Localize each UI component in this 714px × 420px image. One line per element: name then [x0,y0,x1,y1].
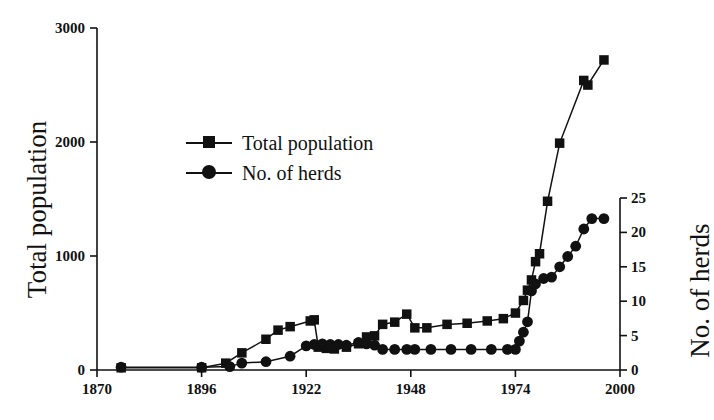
y-axis-right-tick-15: 15 [631,259,646,274]
data-point-marker [409,344,420,355]
data-point-marker [522,316,533,327]
y-axis-right-tick-5: 5 [631,328,639,343]
data-point-marker [583,80,593,90]
legend-marker-circle-icon [186,163,232,183]
data-point-marker [310,315,320,325]
data-point-marker [586,213,597,224]
data-point-marker [426,344,437,355]
data-point-marker [261,335,271,345]
x-axis-tick-1922: 1922 [291,382,321,397]
legend-label-no-of-herds: No. of herds [242,163,341,183]
data-point-marker [466,344,477,355]
data-point-marker [446,344,457,355]
data-point-marker [519,296,529,306]
data-point-marker [422,323,432,333]
data-point-marker [116,362,127,373]
data-point-marker [511,308,521,318]
data-point-marker [402,309,412,319]
data-point-marker [285,322,295,332]
data-point-marker [273,325,283,335]
legend-item-no-of-herds: No. of herds [186,158,373,188]
data-point-marker [341,340,352,351]
data-point-marker [370,331,380,341]
y-axis-left-title: Total population [24,95,51,325]
data-point-marker [499,314,509,324]
data-point-marker [543,197,553,207]
legend-marker-square-icon [186,133,232,153]
y-axis-right-title: No. of herds [687,176,714,406]
data-point-marker [555,138,565,148]
data-point-marker [261,356,272,367]
legend-label-total-population: Total population [242,133,373,153]
data-point-marker [570,241,581,252]
data-point-marker [599,213,610,224]
x-axis-tick-2000: 2000 [605,382,635,397]
legend-item-total-population: Total population [186,128,373,158]
data-point-marker [562,251,573,262]
chart-legend: Total population No. of herds [186,128,373,188]
data-point-marker [236,358,247,369]
x-axis-tick-1896: 1896 [187,382,217,397]
data-point-marker [546,272,557,283]
y-axis-right-tick-20: 20 [631,225,646,240]
y-axis-right-tick-25: 25 [631,191,646,206]
data-point-marker [599,55,609,64]
x-axis-tick-1948: 1948 [396,382,426,397]
y-axis-right-tick-10: 10 [631,294,646,309]
data-point-marker [554,261,565,272]
y-axis-left-tick-0: 0 [0,363,85,378]
data-point-marker [578,224,589,235]
data-point-marker [196,362,207,373]
x-axis-tick-1974: 1974 [500,382,530,397]
data-point-marker [237,348,247,358]
data-point-marker [518,327,529,338]
data-point-marker [486,344,497,355]
data-point-marker [378,320,388,330]
data-point-marker [377,344,388,355]
x-axis-tick-1870: 1870 [82,382,112,397]
data-point-marker [462,319,472,329]
y-axis-left-tick-3000: 3000 [0,21,85,36]
data-point-marker [442,320,452,330]
data-point-marker [390,317,400,327]
data-point-marker [410,323,420,333]
data-point-marker [224,361,235,372]
series-no-of-herds [116,213,610,372]
data-point-marker [483,316,493,326]
y-axis-right-tick-0: 0 [631,363,639,378]
data-point-marker [285,351,296,362]
data-point-marker [389,344,400,355]
series-total-population [116,55,608,372]
chart-series [116,55,610,372]
data-point-marker [535,249,545,259]
